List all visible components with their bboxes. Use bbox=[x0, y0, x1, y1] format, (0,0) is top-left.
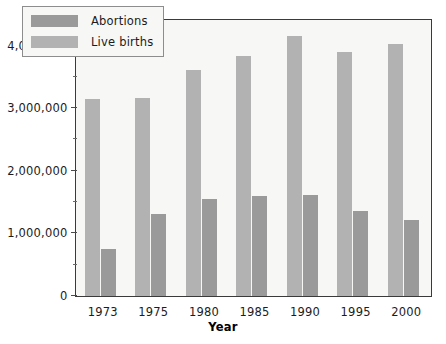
bar-group bbox=[77, 21, 128, 297]
x-axis-label: 1990 bbox=[290, 305, 320, 319]
bar-group bbox=[228, 21, 279, 297]
bar-abortions bbox=[404, 220, 419, 296]
x-axis-label: 2000 bbox=[391, 305, 421, 319]
y-axis-label: 3,000,000 bbox=[7, 101, 67, 115]
y-axis-label: 0 bbox=[60, 289, 68, 303]
bar-chart-figure: 01,000,0002,000,0003,000,0004,000,000 19… bbox=[0, 0, 446, 344]
bar-group bbox=[279, 21, 330, 297]
legend-item-abortions: Abortions bbox=[31, 14, 153, 28]
bar-live-births bbox=[135, 98, 150, 296]
bar-live-births bbox=[287, 36, 302, 296]
x-axis-title: Year bbox=[0, 320, 446, 334]
bar-live-births bbox=[85, 99, 100, 296]
legend-item-live-births: Live births bbox=[31, 35, 153, 49]
legend-swatch-live-births bbox=[31, 36, 78, 48]
y-axis-label: 2,000,000 bbox=[7, 164, 67, 178]
bar-live-births bbox=[388, 44, 403, 296]
legend-swatch-abortions bbox=[31, 15, 78, 27]
bar-group bbox=[178, 21, 229, 297]
bar-live-births bbox=[186, 70, 201, 296]
x-axis-label: 1980 bbox=[189, 305, 219, 319]
bar-abortions bbox=[303, 195, 318, 296]
x-axis-label: 1985 bbox=[239, 305, 269, 319]
bar-group bbox=[380, 21, 431, 297]
bar-group bbox=[329, 21, 380, 297]
plot-area: 01,000,0002,000,0003,000,0004,000,000 19… bbox=[77, 21, 431, 297]
bar-abortions bbox=[151, 214, 166, 296]
legend-label-abortions: Abortions bbox=[91, 14, 148, 28]
chart-legend: Abortions Live births bbox=[22, 6, 164, 57]
x-axis-label: 1995 bbox=[341, 305, 371, 319]
bar-abortions bbox=[202, 199, 217, 296]
bar-abortions bbox=[101, 249, 116, 296]
bar-group bbox=[127, 21, 178, 297]
y-axis-label: 1,000,000 bbox=[7, 226, 67, 240]
legend-label-live-births: Live births bbox=[91, 35, 153, 49]
bar-live-births bbox=[236, 56, 251, 296]
bar-abortions bbox=[353, 211, 368, 296]
x-axis-label: 1975 bbox=[138, 305, 168, 319]
bar-live-births bbox=[337, 52, 352, 296]
x-axis-label: 1973 bbox=[88, 305, 118, 319]
bar-abortions bbox=[252, 196, 267, 296]
